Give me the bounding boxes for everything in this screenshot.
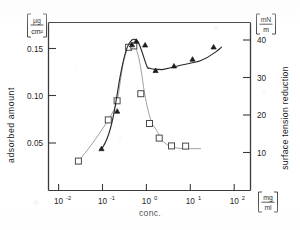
series-1-marker [75,158,81,164]
series-1-marker [147,121,153,127]
left-unit-numerator: µg [33,17,41,25]
right-tick-label-1: 30 [257,74,267,83]
series-1-marker [105,117,111,123]
right-tick-label-2: 20 [257,111,267,120]
bottom-tick-exponent-4: 2 [242,195,245,201]
left-tick-label-0: 0.15 [27,45,43,54]
series-1-marker [156,135,162,141]
series-1-marker [183,143,189,149]
bottom-tick-exponent-0: -2 [66,195,71,201]
left-tick-label-2: 0.05 [27,139,43,148]
left-axis-title: adsorbed amount [6,87,16,163]
series-1-marker [169,143,175,149]
bottom-unit-numerator: mg [263,194,273,202]
figure-chart: 0.15 0.10 0.05 µg cm² adsorbed amount 40… [0,0,300,230]
right-axis-title: surface tension reduction [280,66,290,170]
bottom-tick-mantissa-3: 10 [186,197,196,206]
left-unit-denominator: cm² [31,28,43,35]
left-tick-label-1: 0.10 [27,92,43,101]
series-1-marker [138,91,144,97]
figure-background [0,0,300,230]
right-unit-denominator: m [263,26,269,33]
bottom-tick-exponent-1: -1 [110,195,115,201]
bottom-tick-exponent-2: 0 [154,195,157,201]
right-tick-label-3: 10 [257,149,267,158]
bottom-axis-title: conc. [139,208,161,218]
bottom-unit-denominator: ml [264,204,272,211]
bottom-tick-exponent-3: 1 [198,195,201,201]
right-unit-numerator: mN [261,16,272,23]
series-1-marker [114,98,120,104]
bottom-tick-mantissa-0: 10 [54,197,64,206]
bottom-tick-mantissa-1: 10 [98,197,108,206]
right-tick-label-0: 40 [257,36,267,45]
bottom-tick-mantissa-4: 10 [230,197,240,206]
bottom-tick-mantissa-2: 10 [142,197,152,206]
